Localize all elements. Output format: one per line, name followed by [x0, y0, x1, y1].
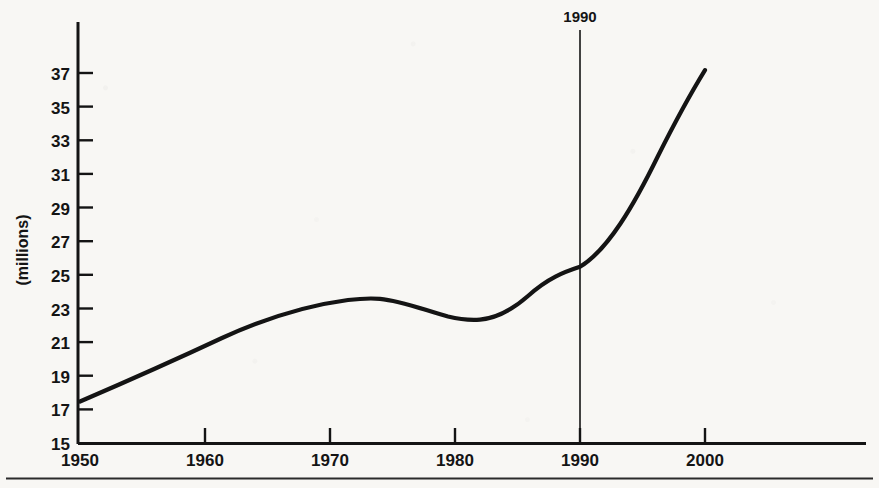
- reference-line-1990-group: 1990: [563, 8, 596, 443]
- y-tick-label: 17: [51, 401, 70, 420]
- y-axis-ticks: 37 35 33 31 29 27 25 23 21: [51, 65, 93, 454]
- line-chart-plot: (millions) 37 35 33 31 29 27: [0, 0, 879, 488]
- y-axis-title: (millions): [14, 214, 31, 285]
- y-tick-label: 35: [51, 99, 70, 118]
- y-tick-label: 19: [51, 368, 70, 387]
- reference-line-1990-label: 1990: [563, 8, 596, 25]
- y-tick-label: 29: [51, 200, 70, 219]
- y-tick-label: 27: [51, 233, 70, 252]
- x-tick-label: 1950: [61, 451, 99, 470]
- x-tick-label: 2000: [686, 451, 724, 470]
- y-tick-label: 37: [51, 65, 70, 84]
- y-tick-label: 23: [51, 301, 70, 320]
- x-axis-ticks: 1950 1960 1970 1980 1990 2000: [61, 428, 724, 470]
- y-tick-label: 21: [51, 334, 70, 353]
- chart-figure: (millions) 37 35 33 31 29 27: [0, 0, 879, 488]
- y-tick-label: 25: [51, 267, 70, 286]
- x-tick-label: 1980: [436, 451, 474, 470]
- x-tick-label: 1970: [311, 451, 349, 470]
- x-tick-label: 1960: [186, 451, 224, 470]
- y-tick-label: 33: [51, 132, 70, 151]
- population-line-series: [80, 70, 705, 401]
- y-tick-label: 31: [51, 166, 70, 185]
- x-tick-label: 1990: [561, 451, 599, 470]
